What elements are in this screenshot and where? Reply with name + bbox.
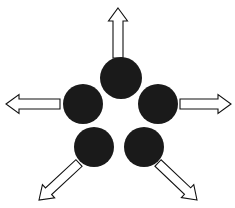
node-bottom-right[interactable]	[124, 127, 164, 167]
node-left[interactable]	[63, 84, 103, 124]
diagram-canvas	[0, 0, 235, 208]
diagram-svg	[0, 0, 235, 208]
node-bottom-left[interactable]	[74, 127, 114, 167]
node-top[interactable]	[100, 57, 142, 99]
node-right[interactable]	[138, 84, 178, 124]
